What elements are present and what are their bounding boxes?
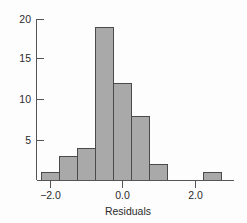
histogram-bar bbox=[204, 172, 222, 180]
histogram-bar bbox=[132, 116, 150, 180]
y-tick-label-5: 5 bbox=[25, 134, 31, 146]
histogram-bar bbox=[96, 28, 114, 181]
histogram-bar bbox=[42, 172, 60, 180]
y-tick-label-15: 15 bbox=[19, 52, 31, 64]
y-tick-label-10: 10 bbox=[19, 93, 31, 105]
histogram-bar bbox=[150, 164, 168, 180]
histogram-figure: 5 10 15 20 −2.0 0.0 2.0 Residuals bbox=[0, 0, 247, 223]
y-tick-label-20: 20 bbox=[19, 13, 31, 25]
histogram-bar bbox=[114, 84, 132, 181]
x-tick-label-neg2: −2.0 bbox=[40, 189, 61, 201]
x-tick-label-2: 2.0 bbox=[188, 189, 203, 201]
histogram-bar bbox=[60, 156, 78, 180]
x-tick-label-0: 0.0 bbox=[115, 189, 130, 201]
x-axis-title: Residuals bbox=[105, 205, 151, 217]
histogram-chart: 5 10 15 20 −2.0 0.0 2.0 Residuals bbox=[0, 0, 247, 223]
histogram-bar bbox=[78, 148, 96, 180]
